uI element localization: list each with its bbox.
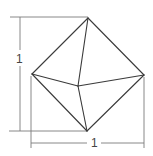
width-label: 1 — [91, 136, 98, 150]
octahedron-edges — [32, 18, 144, 131]
edge-top-center — [78, 18, 88, 86]
height-label: 1 — [16, 52, 23, 66]
edge-left-center — [32, 74, 78, 86]
octahedron-diagram: 1 1 — [0, 0, 153, 156]
edge-top-right — [88, 18, 144, 75]
dimension-lines — [9, 17, 144, 148]
edge-center-bottom — [78, 86, 87, 131]
edge-top-left — [32, 18, 88, 74]
